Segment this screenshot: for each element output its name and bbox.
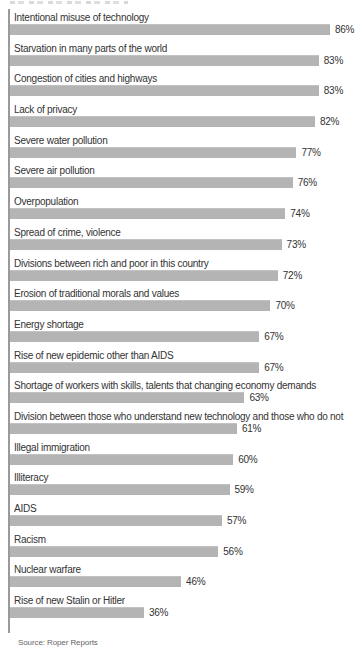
bar-line: 63% [10,392,359,403]
chart-rows: Intentional misuse of technology 86% Sta… [10,11,359,625]
value-label: 67% [264,362,283,373]
value-label: 72% [283,270,302,281]
category-label: Energy shortage [14,318,359,331]
bar [10,85,319,96]
category-label: Congestion of cities and highways [14,72,359,85]
value-label: 67% [264,331,283,342]
bar-line: 56% [10,546,359,557]
value-label: 46% [186,576,205,587]
category-label: Divisions between rich and poor in this … [14,257,359,270]
bar-row: Severe water pollution 77% [10,134,359,165]
value-label: 77% [301,147,320,158]
value-label: 83% [324,55,343,66]
bar [10,55,319,66]
bar [10,270,278,281]
bar-row: Spread of crime, violence 73% [10,226,359,257]
bar-line: 46% [10,576,359,587]
bar-row: Rise of new epidemic other than AIDS 67% [10,349,359,380]
bar-line: 67% [10,362,359,373]
bar-line: 59% [10,484,359,495]
bar-line: 61% [10,423,359,434]
bar [10,239,282,250]
source-note: Source: Roper Reports [18,638,98,647]
value-label: 83% [324,85,343,96]
bar [10,454,233,465]
bar-chart: Intentional misuse of technology 86% Sta… [8,9,359,635]
bar-row: Illiteracy 59% [10,471,359,502]
value-label: 76% [298,177,317,188]
value-label: 82% [320,116,339,127]
bar-chart-page: Intentional misuse of technology 86% Sta… [0,0,361,650]
category-label: Severe air pollution [14,164,359,177]
value-label: 36% [149,607,168,618]
value-label: 74% [290,208,309,219]
bar [10,116,315,127]
value-label: 61% [242,423,261,434]
bar-row: Congestion of cities and highways 83% [10,72,359,103]
bar-row: Energy shortage 67% [10,318,359,349]
bar-row: Severe air pollution 76% [10,164,359,195]
bar [10,423,237,434]
category-label: Shortage of workers with skills, talents… [14,379,359,392]
bar-row: Overpopulation 74% [10,195,359,226]
bar-line: 83% [10,85,359,96]
category-label: Rise of new epidemic other than AIDS [14,349,359,362]
category-label: Intentional misuse of technology [14,11,359,24]
category-label: Division between those who understand ne… [14,410,359,423]
category-label: Nuclear warfare [14,563,359,576]
bar-row: Racism 56% [10,533,359,564]
category-label: Erosion of traditional morals and values [14,287,359,300]
bar-row: Lack of privacy 82% [10,103,359,134]
bar [10,331,259,342]
bar-line: 57% [10,515,359,526]
bar-line: 60% [10,454,359,465]
bar-line: 72% [10,270,359,281]
category-label: Rise of new Stalin or Hitler [14,594,359,607]
category-label: Lack of privacy [14,103,359,116]
clipped-header-text [10,1,128,4]
bar [10,607,144,618]
bar [10,24,330,35]
bar-line: 82% [10,116,359,127]
bar-line: 67% [10,331,359,342]
value-label: 56% [223,546,242,557]
bar-row: Rise of new Stalin or Hitler 36% [10,594,359,625]
bar-row: Divisions between rich and poor in this … [10,257,359,288]
bar [10,576,181,587]
category-label: Spread of crime, violence [14,226,359,239]
bar-line: 74% [10,208,359,219]
category-label: Overpopulation [14,195,359,208]
bar-line: 86% [10,24,359,35]
bar-row: Nuclear warfare 46% [10,563,359,594]
value-label: 59% [235,484,254,495]
bar [10,362,259,373]
bar [10,300,270,311]
bar-line: 36% [10,607,359,618]
bar-line: 73% [10,239,359,250]
value-label: 57% [227,515,246,526]
bar-line: 76% [10,177,359,188]
bar-row: Erosion of traditional morals and values… [10,287,359,318]
bar [10,484,230,495]
bar-line: 70% [10,300,359,311]
bar-row: Division between those who understand ne… [10,410,359,441]
value-label: 86% [335,24,354,35]
category-label: Illiteracy [14,471,359,484]
bar-line: 77% [10,147,359,158]
bar-line: 83% [10,55,359,66]
bar [10,546,218,557]
bar-row: AIDS 57% [10,502,359,533]
value-label: 73% [287,239,306,250]
bar-row: Intentional misuse of technology 86% [10,11,359,42]
category-label: Severe water pollution [14,134,359,147]
bar-row: Starvation in many parts of the world 83… [10,42,359,73]
bar [10,515,222,526]
bar [10,392,244,403]
value-label: 60% [238,454,257,465]
category-label: Starvation in many parts of the world [14,42,359,55]
bar [10,208,285,219]
bar-row: Shortage of workers with skills, talents… [10,379,359,410]
category-label: Illegal immigration [14,441,359,454]
category-label: Racism [14,533,359,546]
value-label: 63% [249,392,268,403]
